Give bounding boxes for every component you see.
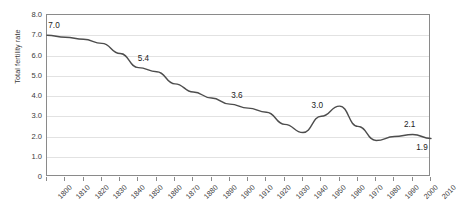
y-axis-tick-label: 3.0 xyxy=(31,111,42,120)
x-axis-tick-mark xyxy=(247,177,248,181)
x-axis-tick-label: 1940 xyxy=(312,183,330,201)
x-axis-tick-mark xyxy=(412,177,413,181)
y-axis-tick-label: 2.0 xyxy=(31,131,42,140)
y-axis-tick-labels: 8.07.06.05.04.03.02.01.00 xyxy=(0,0,42,219)
x-axis-tick-mark xyxy=(320,177,321,181)
x-axis-tick-mark xyxy=(156,177,157,181)
y-axis-tick-label: 7.0 xyxy=(31,30,42,39)
y-axis-tick-label: 8.0 xyxy=(31,10,42,19)
y-axis-tick-label: 1.0 xyxy=(31,151,42,160)
x-axis-tick-label: 2000 xyxy=(422,183,440,201)
x-axis-tick-mark xyxy=(302,177,303,181)
x-axis-tick-mark xyxy=(229,177,230,181)
y-axis-tick-label: 5.0 xyxy=(31,70,42,79)
x-axis-tick-label: 2010 xyxy=(440,183,458,201)
x-axis-tick-label: 1830 xyxy=(111,183,129,201)
data-point-label: 1.9 xyxy=(416,142,427,151)
x-axis-tick-mark xyxy=(393,177,394,181)
data-point-label: 2.1 xyxy=(404,120,415,129)
x-axis-tick-mark xyxy=(137,177,138,181)
x-axis-tick-label: 1950 xyxy=(330,183,348,201)
data-point-label: 3.0 xyxy=(312,101,323,110)
x-axis-tick-mark xyxy=(46,177,47,181)
x-axis-tick-label: 1900 xyxy=(239,183,257,201)
x-axis-tick-mark xyxy=(119,177,120,181)
x-axis-tick-label: 1800 xyxy=(56,183,74,201)
x-axis-tick-mark xyxy=(83,177,84,181)
data-point-label: 3.6 xyxy=(231,91,242,100)
x-axis-tick-label: 1870 xyxy=(184,183,202,201)
x-axis-tick-label: 1970 xyxy=(367,183,385,201)
x-axis-tick-label: 1980 xyxy=(385,183,403,201)
x-axis-tick-label: 1860 xyxy=(166,183,184,201)
x-axis-tick-label: 1990 xyxy=(403,183,421,201)
x-axis-tick-label: 1960 xyxy=(348,183,366,201)
data-point-label: 7.0 xyxy=(48,21,59,30)
x-axis-tick-label: 1930 xyxy=(294,183,312,201)
x-axis-tick-label: 1820 xyxy=(92,183,110,201)
y-axis-tick-label: 0 xyxy=(38,172,42,181)
x-axis-tick-label: 1810 xyxy=(74,183,92,201)
x-axis-tick-mark xyxy=(284,177,285,181)
x-axis-tick-mark xyxy=(375,177,376,181)
x-axis-tick-mark xyxy=(357,177,358,181)
y-axis-tick-label: 6.0 xyxy=(31,50,42,59)
x-axis-tick-mark xyxy=(265,177,266,181)
x-axis-tick-mark xyxy=(174,177,175,181)
x-axis-tick-mark xyxy=(64,177,65,181)
x-axis-tick-label: 1910 xyxy=(257,183,275,201)
x-axis-tick-mark xyxy=(101,177,102,181)
x-axis-tick-label: 1890 xyxy=(220,183,238,201)
x-axis-tick-mark xyxy=(192,177,193,181)
x-axis-tick-mark xyxy=(339,177,340,181)
x-axis-tick-label: 1840 xyxy=(129,183,147,201)
x-axis-tick-mark xyxy=(211,177,212,181)
x-axis-tick-label: 1880 xyxy=(202,183,220,201)
x-axis-tick-label: 1920 xyxy=(275,183,293,201)
data-point-label: 5.4 xyxy=(138,53,149,62)
y-axis-tick-label: 4.0 xyxy=(31,91,42,100)
x-axis-tick-mark xyxy=(430,177,431,181)
x-axis-tick-label: 1850 xyxy=(147,183,165,201)
